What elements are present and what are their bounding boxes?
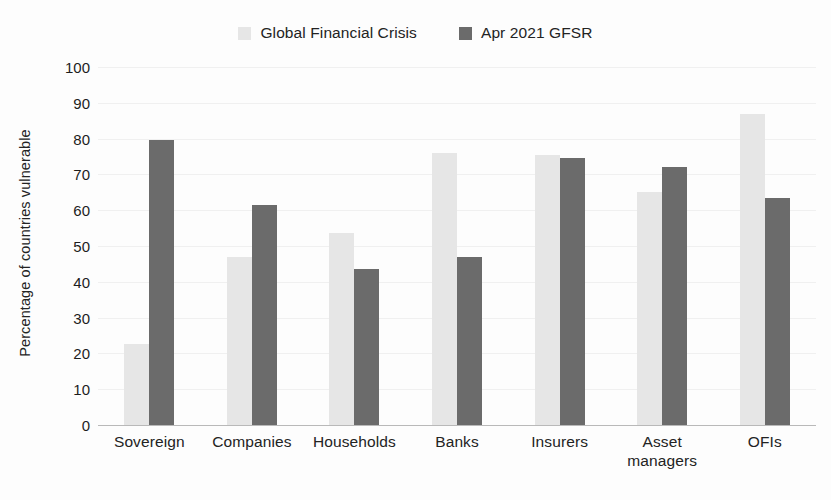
bar[interactable]: [740, 114, 765, 425]
x-axis-category-label: Assetmanagers: [611, 432, 714, 470]
legend-label-global-financial-crisis: Global Financial Crisis: [260, 24, 417, 42]
x-axis-category-label: Households: [303, 432, 406, 470]
bar[interactable]: [354, 269, 379, 425]
y-axis-tick-label: 90: [73, 94, 90, 111]
bar-groups: [98, 67, 816, 425]
bar-group: [201, 67, 304, 425]
y-axis-tick-label: 100: [65, 59, 90, 76]
x-axis-category-line: managers: [611, 451, 714, 470]
y-axis-tick-label: 30: [73, 309, 90, 326]
bar[interactable]: [149, 140, 174, 425]
y-axis-tick-label: 70: [73, 166, 90, 183]
y-axis-title: Percentage of countries vulnerable: [14, 60, 36, 425]
legend-swatch-apr-2021-gfsr: [459, 27, 472, 40]
bar-group: [713, 67, 816, 425]
x-axis-labels: SovereignCompaniesHouseholdsBanksInsurer…: [98, 432, 816, 470]
legend-item-global-financial-crisis[interactable]: Global Financial Crisis: [238, 24, 417, 42]
bar-group: [508, 67, 611, 425]
x-axis-category-line: Banks: [435, 433, 479, 450]
bar-group: [406, 67, 509, 425]
bar-group: [611, 67, 714, 425]
y-axis-tick-label: 80: [73, 130, 90, 147]
bar[interactable]: [535, 155, 560, 425]
bar[interactable]: [329, 233, 354, 425]
y-axis-tick-label: 0: [82, 417, 90, 434]
x-axis-category-label: Companies: [201, 432, 304, 470]
bar[interactable]: [227, 257, 252, 425]
x-axis-category-line: OFIs: [748, 433, 782, 450]
bar[interactable]: [560, 158, 585, 425]
x-axis-category-line: Companies: [212, 433, 291, 450]
x-axis-category-line: Sovereign: [114, 433, 185, 450]
y-axis-title-text: Percentage of countries vulnerable: [17, 129, 33, 356]
legend-swatch-global-financial-crisis: [238, 27, 251, 40]
legend-item-apr-2021-gfsr[interactable]: Apr 2021 GFSR: [459, 24, 593, 42]
chart-legend: Global Financial Crisis Apr 2021 GFSR: [0, 24, 831, 42]
x-axis-category-line: Households: [313, 433, 396, 450]
bar[interactable]: [637, 192, 662, 425]
bar[interactable]: [457, 257, 482, 425]
bar[interactable]: [252, 205, 277, 425]
x-axis-category-label: Banks: [406, 432, 509, 470]
x-axis-category-label: Sovereign: [98, 432, 201, 470]
x-axis-category-label: OFIs: [713, 432, 816, 470]
y-axis-ticks: 1009080706050403020100: [38, 67, 90, 425]
bar[interactable]: [765, 198, 790, 425]
bar[interactable]: [432, 153, 457, 425]
y-axis-tick-label: 50: [73, 238, 90, 255]
y-axis-tick-label: 10: [73, 381, 90, 398]
chart-figure: Global Financial Crisis Apr 2021 GFSR Pe…: [0, 0, 831, 500]
x-axis-category-line: Asset: [643, 433, 682, 450]
x-axis-line: [98, 425, 816, 426]
bar-group: [98, 67, 201, 425]
x-axis-category-line: Insurers: [531, 433, 588, 450]
y-axis-tick-label: 60: [73, 202, 90, 219]
bar-group: [303, 67, 406, 425]
bar[interactable]: [124, 344, 149, 425]
x-axis-category-label: Insurers: [508, 432, 611, 470]
legend-label-apr-2021-gfsr: Apr 2021 GFSR: [481, 24, 593, 42]
y-axis-tick-label: 20: [73, 345, 90, 362]
y-axis-tick-label: 40: [73, 273, 90, 290]
bar[interactable]: [662, 167, 687, 425]
